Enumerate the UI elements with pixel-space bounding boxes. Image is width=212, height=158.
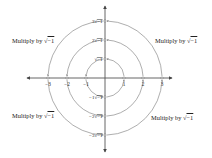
- caption-text: Multiply by: [155, 37, 187, 44]
- radicand: −1: [47, 37, 54, 44]
- tick-label-y-2: 2√−1: [92, 38, 103, 43]
- complex-plane-diagram: −3 −2 −1 1 2 3 3√−1 2√−1 √−1 −1√−1 −2√−1…: [0, 0, 212, 158]
- caption-text: Multiply by: [12, 37, 44, 44]
- tick-label-y-neg1: −1√−1: [89, 95, 103, 100]
- caption-top-right: Multiply by √−1: [155, 38, 197, 44]
- tick-label-x-neg2: −2: [64, 81, 70, 87]
- caption-top-left: Multiply by √−1: [12, 38, 54, 44]
- tick-label-y-neg3: −3√−1: [89, 133, 103, 138]
- tick-label-x-neg3: −3: [45, 81, 51, 87]
- caption-bottom-right: Multiply by √−1: [151, 115, 193, 121]
- caption-bottom-left: Multiply by √−1: [12, 113, 54, 119]
- tick-label-x-1: 1: [123, 81, 126, 87]
- tick-label-y-3: 3√−1: [92, 19, 103, 24]
- tick-label-y-neg2: −2√−1: [89, 114, 103, 119]
- tick-label-x-2: 2: [142, 81, 145, 87]
- radicand: −1: [190, 37, 197, 44]
- tick-label-y-1: √−1: [94, 57, 103, 62]
- caption-text: Multiply by: [151, 114, 183, 121]
- tick-label-x-neg1: −1: [83, 81, 89, 87]
- radicand: −1: [47, 112, 54, 119]
- radicand: −1: [186, 114, 193, 121]
- caption-text: Multiply by: [12, 112, 44, 119]
- tick-label-x-3: 3: [161, 81, 164, 87]
